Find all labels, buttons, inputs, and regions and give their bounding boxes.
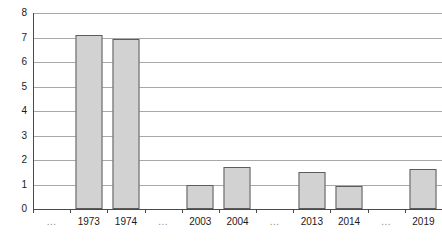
x-tick-label: 1974 <box>115 216 137 228</box>
y-tick-label: 7 <box>5 33 27 43</box>
bar-slot <box>70 13 107 209</box>
x-tick-label: ... <box>158 216 168 228</box>
y-tick-label: 3 <box>5 131 27 141</box>
bar-slot <box>330 13 367 209</box>
x-tick <box>145 209 146 213</box>
y-tick-label: 0 <box>5 204 27 214</box>
x-tick <box>107 209 108 213</box>
x-tick-label: 2013 <box>301 216 323 228</box>
bar <box>187 185 214 210</box>
bar <box>75 35 102 209</box>
bar-slot <box>33 13 70 209</box>
bar-slot <box>293 13 330 209</box>
x-tick-label: 2004 <box>226 216 248 228</box>
x-axis-ticks <box>33 209 442 214</box>
y-tick-label: 8 <box>5 8 27 18</box>
y-tick-label: 5 <box>5 82 27 92</box>
bar <box>410 169 437 209</box>
bar <box>112 39 139 209</box>
y-tick-label: 1 <box>5 180 27 190</box>
bar-slot <box>182 13 219 209</box>
x-tick <box>368 209 369 213</box>
x-tick <box>256 209 257 213</box>
x-tick <box>70 209 71 213</box>
bar-slot <box>145 13 182 209</box>
bar <box>298 172 325 209</box>
x-tick <box>330 209 331 213</box>
bar-slot <box>219 13 256 209</box>
x-tick-label: ... <box>47 216 57 228</box>
bar-chart: 012345678 ...19731974...20032004...20132… <box>0 0 442 242</box>
bar <box>224 167 251 209</box>
x-axis-tick-labels: ...19731974...20032004...20132014...2019 <box>33 216 442 234</box>
bar-slot <box>368 13 405 209</box>
y-axis-tick-labels: 012345678 <box>0 0 27 242</box>
x-tick-label: 2003 <box>189 216 211 228</box>
y-tick-label: 6 <box>5 57 27 67</box>
x-tick-label: ... <box>381 216 391 228</box>
x-tick-label: 1973 <box>78 216 100 228</box>
x-tick <box>293 209 294 213</box>
y-tick-label: 2 <box>5 155 27 165</box>
x-tick <box>219 209 220 213</box>
bar-slot <box>107 13 144 209</box>
x-tick-label: ... <box>270 216 280 228</box>
x-tick-label: 2019 <box>412 216 434 228</box>
x-tick <box>33 209 34 213</box>
x-tick-label: 2014 <box>338 216 360 228</box>
y-tick-label: 4 <box>5 106 27 116</box>
x-tick <box>405 209 406 213</box>
bar <box>336 186 363 209</box>
bar-slot <box>256 13 293 209</box>
bar-slot <box>405 13 442 209</box>
x-tick <box>182 209 183 213</box>
bars-layer <box>33 13 442 209</box>
